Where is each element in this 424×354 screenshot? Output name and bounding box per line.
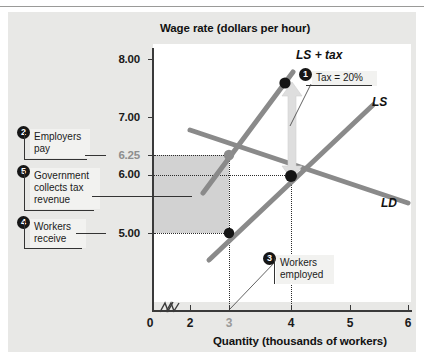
callout-tax-rate: Tax = 20% (312, 71, 377, 86)
y-axis (152, 48, 154, 310)
guide-line-q3 (229, 156, 230, 310)
callout-government-line1: Government (34, 170, 96, 182)
y-tick-500 (148, 233, 154, 234)
x-tick-label-4: 4 (281, 316, 301, 330)
callout-employers-pay: Employers pay (30, 129, 90, 158)
x-tick-4 (291, 305, 292, 311)
callout-3-left-rule (274, 258, 275, 284)
guide-line-625 (154, 155, 230, 156)
x-tick-3 (229, 305, 230, 311)
x-axis-title: Quantity (thousands of workers) (213, 335, 387, 347)
callout-badge-1: 1 (299, 68, 312, 81)
callout-employers-pay-line1: Employers (34, 131, 86, 143)
callout-2-bottom-rule (24, 159, 87, 160)
x-tick-6 (408, 305, 409, 311)
y-tick-625 (148, 155, 154, 156)
callout-government-line2: collects tax (34, 182, 96, 194)
callout-tax-rate-text: Tax = 20% (316, 72, 374, 84)
guide-line-500 (154, 233, 230, 234)
callout-government-line3: revenue (34, 194, 96, 206)
x-tick-label-6: 6 (398, 316, 418, 330)
callout-5-leader-to-region (92, 196, 192, 197)
callout-5-bottom-rule (24, 210, 94, 211)
guide-line-q4 (291, 176, 292, 310)
curve-label-ls: LS (372, 95, 387, 109)
y-tick-label-500: 5.00 (106, 227, 140, 239)
y-tick-label-700: 7.00 (106, 111, 140, 123)
x-tick-2 (190, 305, 191, 311)
x-tick-label-5: 5 (340, 316, 360, 330)
y-tick-label-800: 8.00 (106, 53, 140, 65)
callout-workers-receive-line2: receive (34, 233, 82, 245)
callout-workers-employed-line1: Workers (280, 257, 330, 269)
x-axis (152, 310, 412, 312)
y-axis-title: Wage rate (dollars per hour) (160, 22, 310, 34)
figure-page: 8.00 7.00 6.25 6.00 5.00 0 2 3 4 5 6 Wag… (0, 0, 424, 354)
shaded-tax-revenue-region (154, 155, 229, 233)
callout-4-bottom-rule (24, 248, 82, 249)
y-tick-600 (148, 175, 154, 176)
callout-workers-employed-line2: employed (280, 269, 330, 281)
y-tick-800 (148, 59, 154, 60)
curve-label-ld: LD (381, 196, 397, 210)
x-tick-label-3: 3 (219, 316, 239, 330)
curve-label-ls-plus-tax: LS + tax (296, 48, 342, 62)
x-tick-label-0: 0 (140, 316, 160, 330)
callout-4-leader-to-axis (76, 233, 106, 234)
callout-workers-receive-line1: Workers (34, 221, 82, 233)
callout-1-underline (306, 85, 372, 86)
x-tick-5 (350, 305, 351, 311)
callout-workers-employed: Workers employed (276, 255, 334, 284)
callout-2-left-rule (24, 132, 25, 160)
y-tick-700 (148, 117, 154, 118)
callout-5-left-rule (24, 171, 25, 211)
callout-employers-pay-line2: pay (34, 143, 86, 155)
y-tick-label-625: 6.25 (106, 149, 140, 161)
guide-line-600 (154, 175, 291, 176)
callout-4-left-rule (24, 221, 25, 249)
x-tick-label-2: 2 (180, 316, 200, 330)
y-tick-label-600: 6.00 (106, 168, 140, 180)
callout-government-tax-revenue: Government collects tax revenue (30, 168, 100, 209)
top-horizontal-rule (0, 6, 424, 7)
callout-2-leader-to-axis (85, 155, 106, 156)
